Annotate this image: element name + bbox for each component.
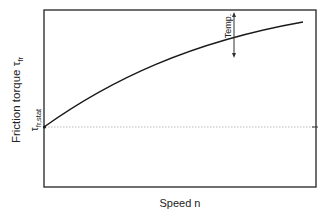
- chart: Temp. Friction torque τfr τfr,stat Speed…: [0, 0, 329, 217]
- friction-curve: [44, 22, 303, 127]
- svg-text:τfr,stat: τfr,stat: [29, 108, 43, 131]
- temperature-annotation: Temp.: [223, 14, 233, 39]
- y-axis-label: Friction torque τfr: [10, 57, 25, 143]
- y-axis-label-sub: fr: [16, 57, 25, 62]
- svg-text:Friction torque τfr: Friction torque τfr: [10, 57, 25, 143]
- y-axis-label-main: Friction torque τ: [10, 61, 22, 143]
- static-torque-label-sub: fr,stat: [34, 108, 43, 127]
- plot-frame: [44, 10, 316, 187]
- static-torque-label: τfr,stat: [29, 108, 43, 131]
- curve-start-point: [43, 125, 46, 128]
- x-axis-label: Speed n: [160, 197, 201, 209]
